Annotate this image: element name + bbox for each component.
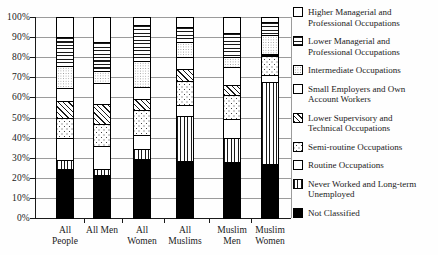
bar-segment: [262, 164, 278, 218]
plot-right-border: [291, 17, 292, 218]
bar-segment: [94, 175, 110, 218]
bar-segment: [177, 18, 193, 27]
bar-segment: [177, 81, 193, 105]
bar-segment: [224, 33, 240, 57]
x-axis-tick: [251, 219, 252, 223]
bar-segment: [224, 138, 240, 162]
bar-segment: [57, 169, 73, 218]
bar-segment: [57, 18, 73, 37]
legend-swatch-icon: [293, 160, 303, 170]
legend-label: Not Classified: [308, 208, 360, 219]
legend-item: Semi-routine Occupations: [293, 142, 435, 153]
bar-segment: [224, 18, 240, 33]
bar-segment: [57, 138, 73, 159]
bar-segment: [94, 18, 110, 42]
bar-segment: [57, 66, 73, 88]
x-axis-tick: [209, 219, 210, 223]
y-tick-label: 60%: [2, 93, 30, 102]
y-tick-label: 0%: [2, 214, 30, 223]
legend-swatch-icon: [293, 36, 303, 46]
bar-segment: [177, 27, 193, 42]
y-tick-label: 10%: [2, 194, 30, 203]
legend-item: Small Employers and OwnAccount Workers: [293, 84, 435, 105]
bar-segment: [134, 61, 150, 87]
bar-segment: [134, 149, 150, 159]
bar-segment: [57, 88, 73, 101]
legend-item: Lower Managerial andProfessional Occupat…: [293, 36, 435, 57]
bar-segment: [177, 69, 193, 81]
bar-segment: [224, 85, 240, 94]
y-tick-label: 20%: [2, 174, 30, 183]
bar-segment: [262, 22, 278, 35]
legend-swatch-icon: [293, 208, 303, 218]
y-tick-label: 30%: [2, 154, 30, 163]
y-tick-label: 80%: [2, 53, 30, 62]
bar-segment: [262, 35, 278, 54]
bar-segment: [57, 118, 73, 138]
bar-segment: [94, 124, 110, 146]
bar-segment: [134, 110, 150, 135]
bar-segment: [177, 161, 193, 218]
legend-label: Intermediate Occupations: [308, 65, 401, 76]
legend-item: Never Worked and Long-termUnemployed: [293, 179, 435, 200]
legend-swatch-icon: [293, 113, 303, 123]
y-tick-label: 100%: [2, 13, 30, 22]
bar: [93, 17, 111, 219]
legend-item: Intermediate Occupations: [293, 65, 435, 76]
legend-label: Routine Occupations: [308, 160, 384, 171]
legend-label: Semi-routine Occupations: [308, 142, 402, 153]
bar-segment: [177, 57, 193, 69]
legend-swatch-icon: [293, 142, 303, 152]
legend-swatch-icon: [293, 179, 303, 189]
bar-segment: [177, 116, 193, 161]
bar-segment: [224, 119, 240, 138]
bar-segment: [224, 67, 240, 85]
bar: [133, 17, 151, 219]
bar-segment: [224, 57, 240, 67]
x-axis-tick: [164, 219, 165, 223]
bar: [223, 17, 241, 219]
bar-segment: [94, 42, 110, 71]
x-category-label: MuslimWomen: [240, 225, 300, 247]
x-axis-tick: [84, 219, 85, 223]
bar-segment: [262, 75, 278, 82]
bar-segment: [57, 101, 73, 118]
x-axis-tick: [122, 219, 123, 223]
bar-segment: [134, 135, 150, 148]
bar-segment: [94, 83, 110, 105]
bar-segment: [262, 82, 278, 164]
bar-segment: [177, 105, 193, 115]
bar-segment: [224, 162, 240, 218]
legend-label: Lower Managerial andProfessional Occupat…: [308, 36, 400, 57]
bar: [176, 17, 194, 219]
bar-segment: [57, 160, 73, 169]
legend-label: Higher Managerial andProfessional Occupa…: [308, 7, 400, 28]
legend-label: Small Employers and OwnAccount Workers: [308, 84, 405, 105]
legend-swatch-icon: [293, 7, 303, 17]
legend-item: Lower Supervisory andTechnical Occupatio…: [293, 113, 435, 134]
bar-segment: [224, 95, 240, 119]
legend-item: Higher Managerial andProfessional Occupa…: [293, 7, 435, 28]
bar-segment: [177, 42, 193, 57]
bar-segment: [57, 37, 73, 66]
bar-segment: [134, 25, 150, 61]
y-tick-label: 50%: [2, 114, 30, 123]
legend-label: Never Worked and Long-termUnemployed: [308, 179, 416, 200]
bar-segment: [134, 159, 150, 218]
y-tick-label: 70%: [2, 73, 30, 82]
bar: [56, 17, 74, 219]
legend-item: Routine Occupations: [293, 160, 435, 171]
y-tick-label: 90%: [2, 33, 30, 42]
bar-segment: [94, 71, 110, 83]
bar-segment: [134, 87, 150, 98]
bar: [261, 17, 279, 219]
bar-segment: [134, 18, 150, 25]
legend-label: Lower Supervisory andTechnical Occupatio…: [308, 113, 392, 134]
bar-segment: [134, 99, 150, 111]
y-tick-label: 40%: [2, 134, 30, 143]
bar-segment: [94, 104, 110, 124]
legend-swatch-icon: [293, 65, 303, 75]
legend-swatch-icon: [293, 84, 303, 94]
legend: Higher Managerial andProfessional Occupa…: [293, 7, 435, 218]
bar-segment: [262, 56, 278, 75]
